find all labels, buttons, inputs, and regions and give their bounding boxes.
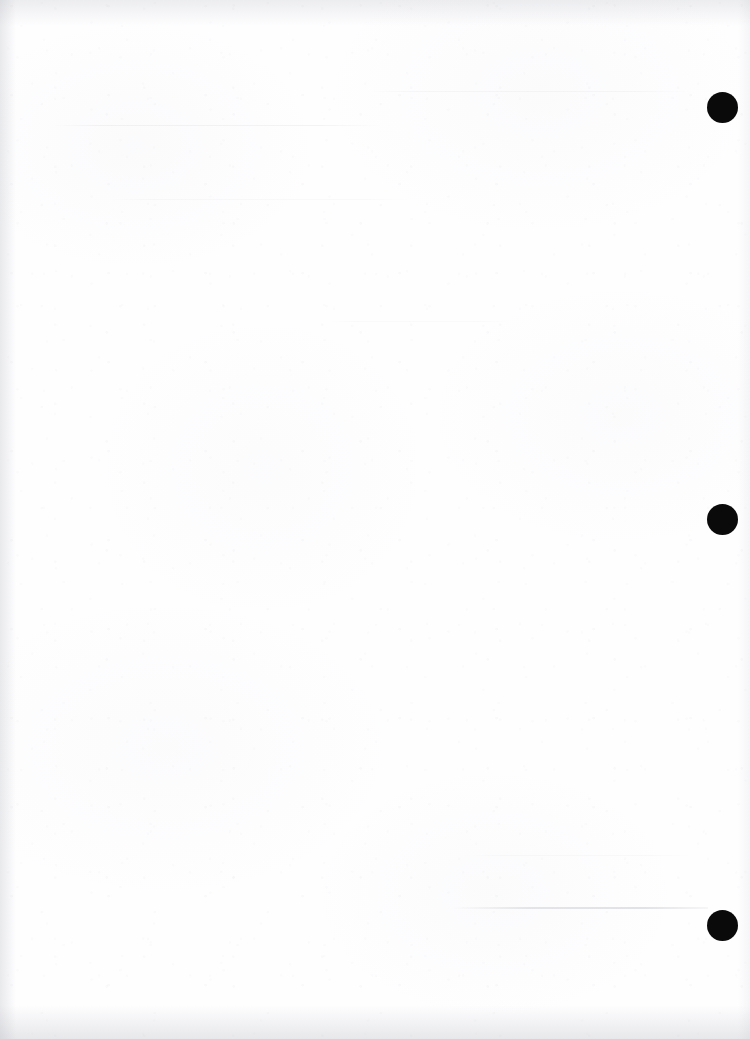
paper-background — [0, 0, 750, 1039]
registration-mark-middle — [707, 504, 738, 535]
registration-mark-bottom — [707, 910, 738, 941]
registration-mark-top — [707, 92, 738, 123]
scanned-page — [0, 0, 750, 1039]
